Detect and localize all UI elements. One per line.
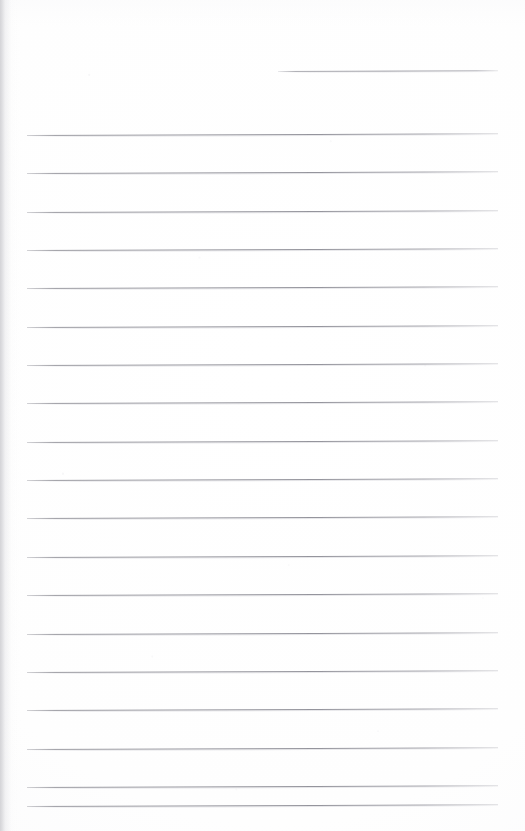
date-line[interactable] — [278, 70, 498, 72]
writing-slot[interactable] — [27, 484, 498, 517]
writing-slot[interactable] — [27, 561, 498, 594]
writing-slot[interactable] — [27, 446, 498, 479]
writing-slot[interactable] — [27, 101, 498, 134]
notepad-page — [0, 0, 525, 831]
writing-slot[interactable] — [27, 331, 498, 364]
writing-slot[interactable] — [27, 408, 498, 441]
writing-slot[interactable] — [27, 638, 498, 671]
writing-slot[interactable] — [27, 293, 498, 326]
writing-slot[interactable] — [27, 139, 498, 172]
writing-slot[interactable] — [27, 600, 498, 633]
writing-slot[interactable] — [27, 715, 498, 748]
writing-slot[interactable] — [27, 753, 498, 786]
writing-slot[interactable] — [27, 254, 498, 287]
writing-slot[interactable] — [27, 178, 498, 211]
writing-slot[interactable] — [27, 523, 498, 556]
writing-slot[interactable] — [27, 216, 498, 249]
writing-slot[interactable] — [27, 676, 498, 709]
writing-slot[interactable] — [27, 369, 498, 402]
